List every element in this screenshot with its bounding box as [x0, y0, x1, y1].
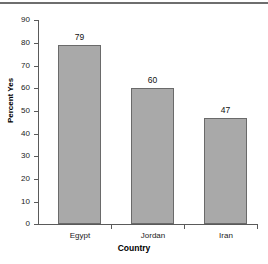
x-category-label-jordan: Jordan [128, 231, 178, 240]
y-tick-mark-80 [34, 43, 38, 44]
y-tick-mark-70 [34, 66, 38, 67]
bar-chart-figure: 90 80 70 60 50 40 30 20 10 0 79 60 47 Eg… [0, 0, 268, 264]
y-tick-mark-40 [34, 134, 38, 135]
y-tick-label-80: 80 [8, 39, 30, 47]
y-tick-mark-30 [34, 156, 38, 157]
y-axis-title: Percent Yes [6, 65, 15, 137]
y-tick-label-20: 20 [8, 175, 30, 183]
y-tick-mark-60 [34, 88, 38, 89]
x-tick-mark-3 [257, 225, 258, 229]
y-tick-mark-10 [34, 202, 38, 203]
image-top-rule [0, 2, 268, 4]
y-axis-line [38, 20, 39, 225]
x-category-label-egypt: Egypt [55, 231, 105, 240]
bar-jordan [131, 88, 174, 224]
x-tick-mark-2 [184, 225, 185, 229]
y-tick-mark-90 [34, 20, 38, 21]
x-tick-mark-1 [111, 225, 112, 229]
bar-value-jordan: 60 [131, 76, 174, 85]
bar-value-egypt: 79 [58, 33, 101, 42]
y-tick-mark-50 [34, 111, 38, 112]
x-category-label-iran: Iran [201, 231, 251, 240]
bar-egypt [58, 45, 101, 224]
y-tick-mark-0 [34, 224, 38, 225]
x-axis-line [38, 224, 258, 225]
x-axis-title: Country [0, 244, 268, 253]
y-tick-label-0: 0 [8, 220, 30, 228]
bar-iran [204, 118, 247, 224]
y-tick-label-10: 10 [8, 198, 30, 206]
y-tick-label-90: 90 [8, 16, 30, 24]
bar-value-iran: 47 [204, 106, 247, 115]
y-tick-label-30: 30 [8, 152, 30, 160]
y-tick-mark-20 [34, 179, 38, 180]
